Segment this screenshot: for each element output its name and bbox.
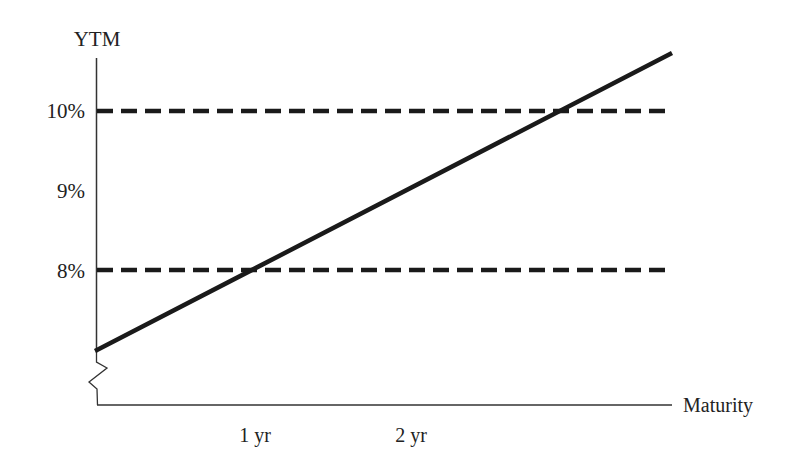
yield-curve-line [97,54,670,350]
y-tick-9pct: 9% [57,179,85,203]
x-tick-2yr: 2 yr [395,424,427,447]
y-axis-title: YTM [74,27,121,51]
axis-break-icon [89,353,107,405]
x-tick-1yr: 1 yr [239,424,271,447]
yield-curve-chart: YTM 10% 9% 8% 1 yr 2 yr Maturity [0,0,808,459]
y-tick-8pct: 8% [57,259,85,283]
x-axis-title: Maturity [683,394,753,417]
y-tick-10pct: 10% [47,99,86,123]
